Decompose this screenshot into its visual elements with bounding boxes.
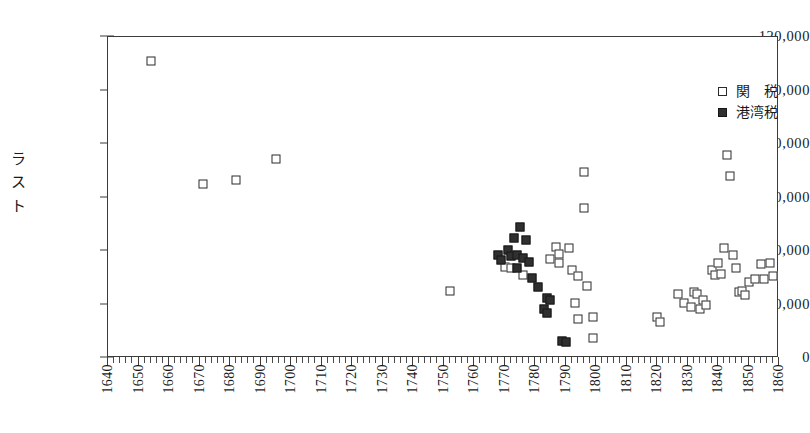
x-tick-minor-1696 <box>278 357 279 363</box>
x-tick-minor-1768 <box>497 357 498 363</box>
data-point <box>701 300 710 309</box>
data-point <box>524 257 533 266</box>
x-tick-label-1850: 1850 <box>741 364 757 394</box>
x-tick-label-1730: 1730 <box>375 364 391 394</box>
chart-legend: 関 税港湾税 <box>718 81 778 123</box>
legend-swatch-open-square-icon <box>718 87 727 96</box>
x-tick-minor-1766 <box>491 357 492 363</box>
x-tick-label-1860: 1860 <box>771 364 787 394</box>
x-tick-minor-1802 <box>601 357 602 363</box>
x-tick-minor-1656 <box>156 357 157 363</box>
data-point <box>729 251 738 260</box>
data-point <box>588 333 597 342</box>
x-tick-label-1720: 1720 <box>344 364 360 394</box>
x-tick-label-1750: 1750 <box>436 364 452 394</box>
x-tick-label-1690: 1690 <box>253 364 269 394</box>
data-point <box>570 299 579 308</box>
x-tick-minor-1758 <box>467 357 468 363</box>
x-tick-minor-1838 <box>711 357 712 363</box>
x-tick-minor-1702 <box>296 357 297 363</box>
data-point <box>546 296 555 305</box>
data-point <box>579 204 588 213</box>
x-tick-minor-1708 <box>314 357 315 363</box>
x-tick-minor-1718 <box>345 357 346 363</box>
x-tick-minor-1652 <box>144 357 145 363</box>
data-point <box>756 260 765 269</box>
x-tick-minor-1754 <box>455 357 456 363</box>
x-tick-minor-1794 <box>577 357 578 363</box>
x-tick-minor-1704 <box>302 357 303 363</box>
x-tick-minor-1822 <box>662 357 663 363</box>
x-tick-minor-1744 <box>424 357 425 363</box>
x-tick-minor-1814 <box>638 357 639 363</box>
x-tick-minor-1858 <box>772 357 773 363</box>
x-tick-minor-1678 <box>223 357 224 363</box>
x-tick-minor-1832 <box>693 357 694 363</box>
x-tick-minor-1828 <box>680 357 681 363</box>
data-point <box>674 289 683 298</box>
x-tick-label-1670: 1670 <box>192 364 208 394</box>
x-tick-minor-1748 <box>436 357 437 363</box>
x-tick-minor-1728 <box>375 357 376 363</box>
y-axis-title-char-2: ト <box>8 195 28 218</box>
data-point <box>759 275 768 284</box>
x-tick-minor-1842 <box>723 357 724 363</box>
x-tick-minor-1712 <box>327 357 328 363</box>
x-tick-minor-1666 <box>186 357 187 363</box>
x-tick-minor-1668 <box>192 357 193 363</box>
x-tick-label-1710: 1710 <box>314 364 330 394</box>
data-point <box>588 312 597 321</box>
x-tick-label-1740: 1740 <box>405 364 421 394</box>
data-point <box>717 269 726 278</box>
x-tick-minor-1648 <box>131 357 132 363</box>
x-tick-minor-1812 <box>632 357 633 363</box>
x-tick-label-1780: 1780 <box>527 364 543 394</box>
data-point <box>497 256 506 265</box>
data-point <box>723 150 732 159</box>
x-tick-label-1810: 1810 <box>619 364 635 394</box>
x-tick-minor-1804 <box>607 357 608 363</box>
x-tick-label-1650: 1650 <box>131 364 147 394</box>
x-tick-label-1800: 1800 <box>588 364 604 394</box>
chart-canvas: ラスト 020,00040,00060,00080,000100,000120,… <box>0 0 810 433</box>
data-point <box>271 154 280 163</box>
x-tick-minor-1672 <box>205 357 206 363</box>
x-tick-minor-1642 <box>113 357 114 363</box>
x-tick-minor-1762 <box>479 357 480 363</box>
x-tick-label-1820: 1820 <box>649 364 665 394</box>
x-tick-minor-1662 <box>174 357 175 363</box>
plot-area: 関 税港湾税 <box>107 36 778 357</box>
data-point <box>768 272 777 281</box>
x-tick-minor-1776 <box>522 357 523 363</box>
x-tick-minor-1826 <box>674 357 675 363</box>
x-tick-minor-1772 <box>510 357 511 363</box>
x-tick-label-1640: 1640 <box>100 364 116 394</box>
data-point <box>741 291 750 300</box>
x-tick-minor-1782 <box>540 357 541 363</box>
data-point <box>232 176 241 185</box>
x-tick-minor-1738 <box>406 357 407 363</box>
data-point <box>765 259 774 268</box>
x-tick-minor-1764 <box>485 357 486 363</box>
legend-label-0: 関 税 <box>736 81 778 102</box>
x-tick-minor-1676 <box>217 357 218 363</box>
x-tick-label-1700: 1700 <box>283 364 299 394</box>
data-point <box>527 273 536 282</box>
x-tick-minor-1688 <box>253 357 254 363</box>
x-tick-minor-1664 <box>180 357 181 363</box>
x-tick-minor-1716 <box>339 357 340 363</box>
data-point <box>732 264 741 273</box>
x-tick-minor-1646 <box>125 357 126 363</box>
data-point <box>750 275 759 284</box>
data-point <box>512 264 521 273</box>
x-tick-minor-1692 <box>266 357 267 363</box>
x-tick-minor-1722 <box>357 357 358 363</box>
legend-swatch-filled-square-icon <box>718 108 727 117</box>
data-point <box>146 57 155 66</box>
x-tick-label-1840: 1840 <box>710 364 726 394</box>
x-tick-minor-1682 <box>235 357 236 363</box>
x-tick-label-1760: 1760 <box>466 364 482 394</box>
data-point <box>521 236 530 245</box>
x-tick-minor-1808 <box>619 357 620 363</box>
data-point <box>582 281 591 290</box>
